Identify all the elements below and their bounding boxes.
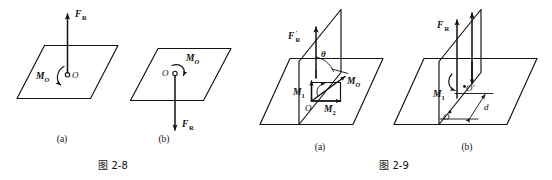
svg-text:R: R [189,124,194,131]
svg-text:F: F [287,31,295,41]
svg-text:R: R [82,14,87,21]
svg-text:1: 1 [442,94,445,101]
svg-text:O: O [195,58,200,65]
svg-text:′: ′ [295,29,297,36]
svg-text:M: M [323,104,333,114]
moment-arc-MO [57,67,64,86]
svg-text:M: M [432,89,442,99]
label-MO: M O [35,71,50,83]
sublabel-fig-2-9-b: (b) [461,142,472,153]
label-point-O: O [72,70,79,80]
svg-text:M: M [292,87,302,97]
svg-text:F: F [181,119,189,129]
label-point-O: O [305,103,312,113]
svg-text:F: F [74,9,82,19]
label-distance-d: d [484,102,489,112]
mechanics-figure-svg: F R M O O (a) O M O F R (b) [0,0,552,180]
label-point-O: O [443,112,450,122]
svg-text:O: O [356,81,361,88]
label-FR: F R [436,20,449,32]
angle-arc-theta [316,57,334,72]
panel-fig-2-9-a: F R ′ θ M O M 1 M 2 O (a) [260,10,383,154]
figure-root: F R M O O (a) O M O F R (b) [0,0,552,180]
label-FR: F R [181,119,194,131]
label-point-O-prime: O′ [466,83,475,93]
panel-fig-2-9-b: F R M 1 O′ O d (b) [394,10,537,154]
sublabel-fig-2-9-a: (a) [315,142,326,153]
label-M2: M 2 [323,104,336,116]
svg-text:2: 2 [333,109,336,116]
label-MO: M O [185,53,200,65]
point-O-marker [173,71,177,75]
svg-text:O: O [45,76,50,83]
sublabel-fig-2-8-b: (b) [158,134,169,145]
svg-text:1: 1 [302,92,305,99]
horizontal-plane-b [131,49,232,101]
sublabel-fig-2-8-a: (a) [57,134,68,145]
label-point-O: O [162,68,169,78]
svg-text:F: F [436,20,444,30]
label-theta: θ [321,49,326,59]
point-O-marker [65,73,69,77]
panel-fig-2-8-b: O M O F R (b) [131,49,232,146]
caption-fig-2-9: 图 2-9 [379,160,409,171]
dimension-arrow-d [470,95,485,119]
svg-text:M: M [35,71,45,81]
label-FR: F R [74,9,87,21]
moment-arc-M1 [449,74,455,91]
panel-fig-2-8-a: F R M O O (a) [17,9,118,145]
label-MO: M O [346,76,361,88]
svg-text:M: M [185,53,195,63]
label-M1: M 1 [292,87,305,99]
horizontal-plane-a [260,59,383,125]
label-FR-prime: F R ′ [287,29,300,43]
svg-text:M: M [346,76,356,86]
svg-text:R: R [295,36,300,43]
svg-text:R: R [444,25,449,32]
label-M1: M 1 [432,89,445,101]
caption-fig-2-8: 图 2-8 [98,160,128,171]
